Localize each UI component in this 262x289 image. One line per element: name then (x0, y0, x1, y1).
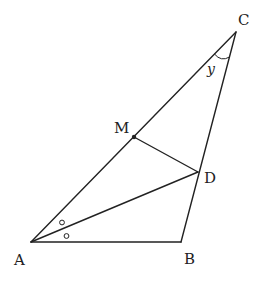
label-angle-y: y (206, 61, 216, 77)
label-a: A (13, 251, 25, 269)
label-c: C (238, 11, 249, 29)
angle-arc-c (215, 54, 230, 59)
point-m-dot (132, 135, 136, 139)
label-d: D (204, 169, 216, 187)
angle-mark-a-upper (60, 220, 65, 225)
segment-md (134, 137, 198, 172)
label-b: B (184, 250, 195, 268)
geometry-diagram: A B C M D y (0, 0, 262, 289)
angle-mark-a-lower (64, 234, 69, 239)
label-m: M (114, 119, 129, 137)
segment-ad (31, 172, 198, 242)
